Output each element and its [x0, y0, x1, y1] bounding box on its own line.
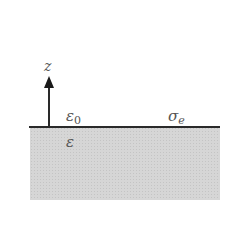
epsilon-subscript: 0 — [74, 114, 81, 127]
dielectric-medium — [30, 127, 220, 200]
z-axis-shaft — [48, 84, 50, 127]
surface-charge-label: σe — [168, 109, 185, 126]
epsilon-zero-label: ε0 — [66, 109, 81, 126]
sigma-subscript: e — [178, 114, 185, 127]
z-axis-arrow-icon — [44, 76, 54, 88]
interface-surface-line — [29, 126, 220, 128]
sigma-symbol: σ — [168, 107, 178, 125]
z-axis-label: z — [44, 59, 51, 73]
epsilon-symbol: ε — [66, 107, 74, 125]
epsilon-medium-label: ε — [66, 135, 74, 150]
